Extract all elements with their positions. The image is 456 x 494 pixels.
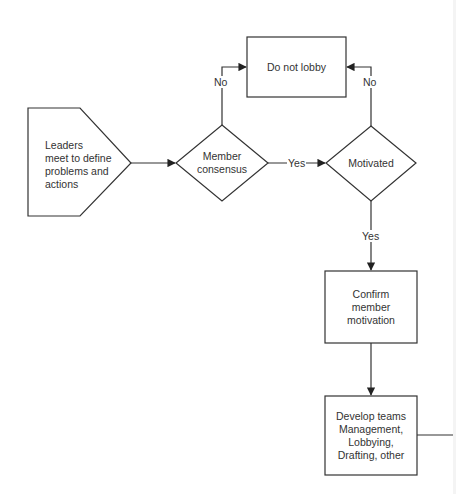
confirm-label-line-3: motivation — [325, 314, 417, 327]
develop-label-line-1: Develop teams — [325, 410, 417, 423]
start-label-line-4: actions — [45, 178, 112, 191]
motivated-node-label: Motivated — [331, 157, 411, 170]
start-label-line-2: meet to define — [45, 152, 112, 165]
confirm-label-line-1: Confirm — [325, 288, 417, 301]
develop-label-line-2: Management, — [325, 423, 417, 436]
start-node-label: Leaders meet to define problems and acti… — [45, 139, 112, 191]
edge-label-motivated-yes: Yes — [361, 230, 380, 242]
edge-label-motivated-no: No — [362, 76, 377, 88]
confirm-label-line-2: member — [325, 301, 417, 314]
consensus-label-line-1: Member — [182, 150, 262, 163]
develop-node-label: Develop teams Management, Lobbying, Draf… — [325, 410, 417, 462]
edge-label-consensus-yes: Yes — [287, 157, 306, 169]
confirm-node-label: Confirm member motivation — [325, 288, 417, 327]
develop-label-line-4: Drafting, other — [325, 449, 417, 462]
develop-label-line-3: Lobbying, — [325, 436, 417, 449]
no-lobby-label-line-1: Do not lobby — [247, 61, 346, 74]
consensus-node-label: Member consensus — [182, 150, 262, 176]
consensus-label-line-2: consensus — [182, 163, 262, 176]
motivated-label-line-1: Motivated — [331, 157, 411, 170]
no-lobby-node-label: Do not lobby — [247, 61, 346, 74]
start-label-line-3: problems and — [45, 165, 112, 178]
start-label-line-1: Leaders — [45, 139, 112, 152]
edge-label-consensus-no: No — [213, 76, 228, 88]
